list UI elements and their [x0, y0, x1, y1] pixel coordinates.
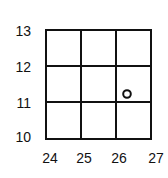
y-label-11: 11 [9, 96, 31, 110]
grid-lines [46, 30, 151, 139]
x-label-27: 27 [144, 151, 168, 165]
x-label-25: 25 [72, 151, 96, 165]
x-label-26: 26 [107, 151, 131, 165]
coordinate-grid-diagram: 13 12 11 10 24 25 26 27 [0, 0, 168, 178]
x-label-24: 24 [38, 151, 62, 165]
y-label-13: 13 [9, 24, 31, 38]
y-label-10: 10 [9, 130, 31, 144]
y-label-12: 12 [9, 60, 31, 74]
point-marker [123, 90, 131, 98]
